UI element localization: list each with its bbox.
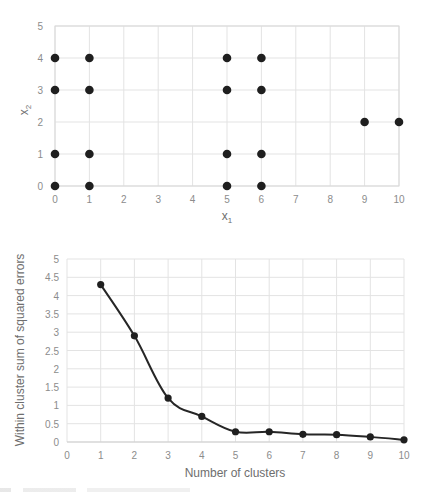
y-tick-label: 4.5 [45,272,59,283]
data-point [85,54,94,63]
x-tick-label: 7 [293,194,299,205]
elbow-y-axis-label: Within cluster sum of squared errors [13,254,27,447]
y-tick-label: 5 [37,21,43,32]
x-tick-label: 6 [266,450,272,461]
y-tick-label: 4 [53,291,59,302]
x-tick-label: 9 [368,450,374,461]
x-tick-label: 4 [190,194,196,205]
elbow-x-axis-label: Number of clusters [185,466,286,480]
x-tick-label: 1 [98,450,104,461]
data-point [51,182,60,191]
scatter-y-tick-labels: 012345 [37,21,43,192]
elbow-x-tick-labels: 012345678910 [64,450,410,461]
y-tick-label: 2 [53,364,59,375]
data-point [257,182,266,191]
scatter-x-tick-labels: 012345678910 [52,194,405,205]
scatter-chart: 012345 012345678910 x2 x1 [0,0,429,240]
y-tick-label: 3.5 [45,309,59,320]
x-tick-label: 10 [393,194,405,205]
elbow-gridlines [67,259,404,442]
data-point [299,431,306,438]
y-tick-label: 0 [53,437,59,448]
x-tick-label: 2 [121,194,127,205]
x-tick-label: 10 [398,450,410,461]
data-point [395,118,404,127]
x-tick-label: 5 [233,450,239,461]
x-tick-label: 2 [132,450,138,461]
x-tick-label: 7 [300,450,306,461]
data-point [85,150,94,159]
y-tick-label: 2 [37,117,43,128]
data-point [223,54,232,63]
y-tick-label: 0.5 [45,419,59,430]
x-tick-label: 0 [52,194,58,205]
data-point [51,54,60,63]
y-tick-label: 1.5 [45,382,59,393]
x-tick-label: 0 [64,450,70,461]
x-tick-label: 3 [155,194,161,205]
x-tick-label: 3 [165,450,171,461]
data-point [51,150,60,159]
data-point [198,413,205,420]
y-tick-label: 3 [37,85,43,96]
data-point [85,182,94,191]
elbow-y-tick-labels: 00.511.522.533.544.55 [45,254,59,448]
elbow-curve [101,285,404,440]
x-tick-label: 5 [224,194,230,205]
y-tick-label: 4 [37,53,43,64]
data-point [333,431,340,438]
data-point [223,150,232,159]
y-tick-label: 2.5 [45,346,59,357]
data-point [360,118,369,127]
y-tick-label: 1 [53,400,59,411]
data-point [165,394,172,401]
elbow-points [97,281,408,443]
scatter-x-axis-label: x1 [222,209,233,225]
x-tick-label: 8 [327,194,333,205]
data-point [223,182,232,191]
y-tick-label: 0 [37,181,43,192]
scatter-gridlines [55,26,399,186]
x-tick-label: 8 [334,450,340,461]
data-point [97,281,104,288]
figure-caption-cropped [0,488,190,492]
data-point [266,428,273,435]
x-tick-label: 4 [199,450,205,461]
data-point [257,150,266,159]
scatter-y-axis-label: x2 [17,104,33,115]
x-tick-label: 6 [259,194,265,205]
data-point [367,433,374,440]
data-point [257,54,266,63]
x-tick-label: 9 [362,194,368,205]
data-point [257,86,266,95]
y-tick-label: 3 [53,327,59,338]
data-point [400,436,407,443]
data-point [51,86,60,95]
data-point [131,332,138,339]
y-tick-label: 1 [37,149,43,160]
data-point [232,428,239,435]
data-point [85,86,94,95]
y-tick-label: 5 [53,254,59,265]
data-point [223,86,232,95]
x-tick-label: 1 [87,194,93,205]
